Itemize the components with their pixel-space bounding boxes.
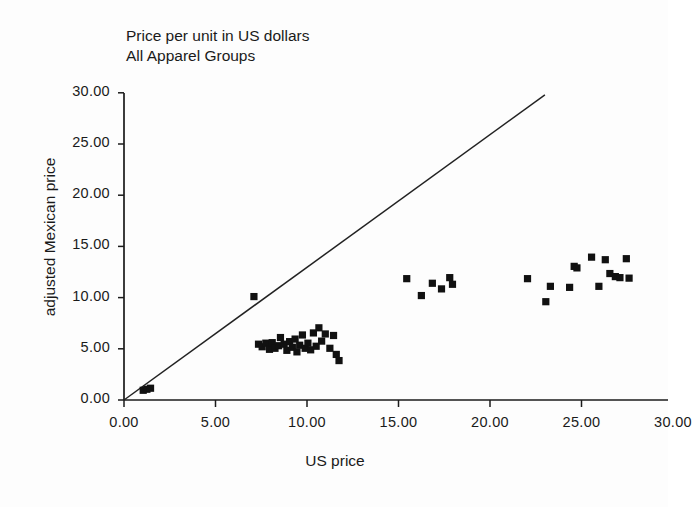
scatter-point [547, 283, 554, 290]
scatter-point [318, 338, 325, 345]
y-tick-label: 10.00 [46, 288, 110, 304]
tick-marks [118, 93, 668, 407]
y-tick-label: 0.00 [46, 390, 110, 406]
scatter-point [147, 385, 154, 392]
x-tick-label: 5.00 [181, 414, 251, 430]
scatter-point [262, 340, 269, 347]
data-points [140, 254, 633, 394]
scatter-point [595, 283, 602, 290]
scatter-point [322, 330, 329, 337]
scatter-point [429, 280, 436, 287]
x-tick-label: 25.00 [547, 414, 617, 430]
scatter-point [588, 254, 595, 261]
scatter-point [438, 285, 445, 292]
y-tick-label: 25.00 [46, 134, 110, 150]
scatter-point [333, 351, 340, 358]
y-tick-label: 20.00 [46, 185, 110, 201]
scatter-point [335, 357, 342, 364]
x-tick-label: 10.00 [272, 414, 342, 430]
scatter-point [315, 324, 322, 331]
scatter-point [304, 340, 311, 347]
x-tick-label: 15.00 [364, 414, 434, 430]
scatter-point [330, 332, 337, 339]
y-tick-label: 15.00 [46, 236, 110, 252]
scatter-point [293, 348, 300, 355]
scatter-point [573, 264, 580, 271]
scatter-point [524, 275, 531, 282]
y-tick-label: 30.00 [46, 83, 110, 99]
scatter-point [449, 281, 456, 288]
scatter-point [625, 275, 632, 282]
scatter-point [292, 335, 299, 342]
x-tick-label: 30.00 [638, 414, 696, 430]
scatter-point [250, 293, 257, 300]
scatter-point [446, 274, 453, 281]
scatter-point [277, 334, 284, 341]
scatter-point [566, 284, 573, 291]
x-tick-label: 20.00 [455, 414, 525, 430]
scatter-point [299, 331, 306, 338]
scatter-point [542, 298, 549, 305]
scatter-point [326, 345, 333, 352]
axes [124, 93, 668, 400]
scatter-point [616, 274, 623, 281]
x-tick-label: 0.00 [89, 414, 159, 430]
y-tick-label: 5.00 [46, 339, 110, 355]
scatter-point [418, 292, 425, 299]
scatter-point [403, 275, 410, 282]
scatter-point [602, 256, 609, 263]
scatter-point [623, 255, 630, 262]
